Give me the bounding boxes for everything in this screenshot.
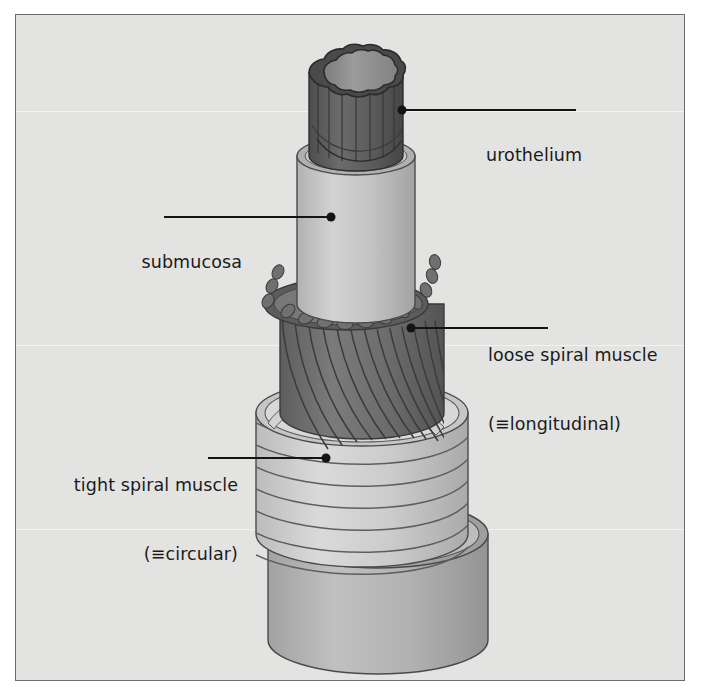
label-tight-spiral-muscle-line2: (≡circular) [16,543,238,566]
figure-plate: urothelium submucosa loose spiral muscle… [15,14,685,681]
label-tight-spiral-muscle: tight spiral muscle (≡circular) [16,428,238,613]
label-urothelium: urothelium [486,98,582,213]
label-loose-spiral-muscle: loose spiral muscle (≡longitudinal) [488,298,658,483]
layer-urothelium [309,44,405,171]
label-loose-spiral-muscle-line2: (≡longitudinal) [488,413,658,436]
figure-root: urothelium submucosa loose spiral muscle… [0,0,701,697]
label-submucosa-line1: submucosa [16,251,242,274]
label-submucosa: submucosa [16,205,242,320]
label-tight-spiral-muscle-line1: tight spiral muscle [16,474,238,497]
label-loose-spiral-muscle-line1: loose spiral muscle [488,344,658,367]
label-urothelium-line1: urothelium [486,144,582,167]
